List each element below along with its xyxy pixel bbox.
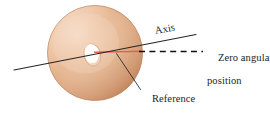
zero-angular-position-label: Zero angular position bbox=[207, 41, 269, 109]
zero-angular-position-label-line1: Zero angular bbox=[218, 52, 270, 63]
reference-line-label-line1: Reference bbox=[152, 93, 195, 104]
rotation-figure: Axis Zero angular position Reference lin… bbox=[0, 0, 270, 116]
zero-angular-position-label-line2: position bbox=[207, 75, 269, 86]
reference-line bbox=[94, 51, 142, 52]
reference-line-label: Reference line bbox=[141, 82, 209, 116]
